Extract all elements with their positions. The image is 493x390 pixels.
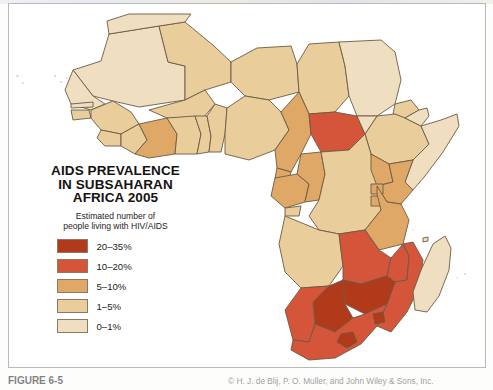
country-cabinda[interactable]	[285, 206, 301, 216]
map-subtitle-line-2: people living with HIV/AIDS	[23, 221, 208, 231]
country-chad[interactable]	[297, 42, 349, 114]
figure-caption-number: FIGURE 6-5	[8, 375, 63, 386]
legend-item-5-10[interactable]: 5–10%	[57, 278, 175, 296]
map-title-line-2: IN SUBSAHARAN	[23, 178, 208, 192]
legend-swatch-1-5	[57, 299, 88, 313]
island-comoros[interactable]	[423, 237, 428, 242]
legend-item-0-1[interactable]: 0–1%	[57, 318, 175, 336]
legend-label-20-35: 20–35%	[97, 241, 132, 252]
legend-label-5-10: 5–10%	[97, 281, 127, 292]
legend-item-10-20[interactable]: 10–20%	[57, 258, 175, 276]
figure-credit: © H. J. de Blij, P. O. Muller, and John …	[228, 376, 434, 386]
legend-label-1-5: 1–5%	[97, 301, 122, 312]
figure-caption-bar: FIGURE 6-5 © H. J. de Blij, P. O. Muller…	[0, 372, 493, 390]
country-guinea-bissau[interactable]	[71, 110, 91, 120]
map-subtitle: Estimated number of people living with H…	[23, 211, 208, 231]
map-legend-block: AIDS PREVALENCE IN SUBSAHARAN AFRICA 200…	[23, 164, 208, 338]
map-frame: .c{stroke:#6b5a44;stroke-width:.9;stroke…	[8, 3, 486, 368]
map-title-line-3: AFRICA 2005	[23, 191, 208, 205]
map-title-line-1: AIDS PREVALENCE	[23, 164, 208, 178]
legend-item-20-35[interactable]: 20–35%	[57, 238, 175, 256]
legend-item-1-5[interactable]: 1–5%	[57, 298, 175, 316]
legend-swatch-0-1	[57, 319, 88, 333]
legend-list: 20–35% 10–20% 5–10% 1–5% 0–1%	[57, 238, 175, 336]
figure-root: .c{stroke:#6b5a44;stroke-width:.9;stroke…	[0, 0, 493, 390]
legend-swatch-5-10	[57, 279, 88, 293]
country-swaziland[interactable]	[373, 312, 385, 324]
scan-speckle	[16, 75, 19, 77]
legend-label-0-1: 0–1%	[97, 321, 122, 332]
legend-swatch-20-35	[57, 239, 88, 253]
legend-swatch-10-20	[57, 259, 88, 273]
legend-label-10-20: 10–20%	[97, 261, 132, 272]
map-title: AIDS PREVALENCE IN SUBSAHARAN AFRICA 200…	[23, 164, 208, 205]
map-subtitle-line-1: Estimated number of	[23, 211, 208, 221]
scan-speckle	[22, 82, 24, 84]
